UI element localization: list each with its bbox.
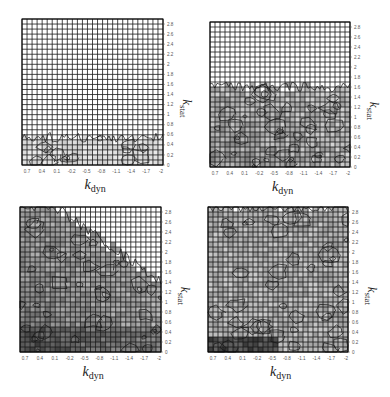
svg-text:0.4: 0.4 [165,330,172,335]
x-axis-ticks: 0.70.40.1-0.2-0.5-0.8-1.1-1.4-1.7-2 [22,356,162,361]
svg-text:2: 2 [165,250,168,255]
svg-text:1: 1 [354,115,357,120]
svg-text:0.2: 0.2 [352,340,359,345]
svg-text:1.2: 1.2 [354,105,361,110]
plot-panel-top-left: 00.20.40.60.811.21.41.61.822.22.42.62.80… [22,19,203,205]
svg-text:2.8: 2.8 [165,210,172,215]
x-axis-label: kdyn [85,177,106,194]
svg-text:1: 1 [165,300,168,305]
svg-text:2.8: 2.8 [167,22,174,27]
svg-text:0.4: 0.4 [354,145,361,150]
y-axis-ticks: 00.20.40.60.811.21.41.61.822.22.42.62.8 [350,25,361,170]
svg-text:2.6: 2.6 [354,35,361,40]
svg-text:-1.4: -1.4 [127,169,135,174]
svg-text:0.7: 0.7 [210,356,217,361]
x-axis-ticks: 0.70.40.1-0.2-0.5-0.8-1.1-1.4-1.7-2 [24,169,164,174]
plot-panel-bottom-left: 00.20.40.60.811.21.41.61.822.22.42.62.80… [20,207,201,392]
svg-text:2.4: 2.4 [354,45,361,50]
svg-text:1.4: 1.4 [167,92,174,97]
svg-text:1.8: 1.8 [165,260,172,265]
svg-text:0.8: 0.8 [352,310,359,315]
x-axis-ticks: 0.70.40.1-0.2-0.5-0.8-1.1-1.4-1.7-2 [212,171,351,176]
svg-text:-0.5: -0.5 [81,356,89,361]
svg-text:-0.2: -0.2 [66,356,74,361]
svg-text:2.6: 2.6 [165,220,172,225]
svg-text:-1.1: -1.1 [112,169,120,174]
svg-text:0: 0 [165,350,168,355]
svg-text:1.2: 1.2 [167,102,174,107]
svg-text:2.2: 2.2 [352,240,359,245]
svg-text:-0.5: -0.5 [268,356,276,361]
svg-text:2.6: 2.6 [167,32,174,37]
svg-text:2.8: 2.8 [352,210,359,215]
svg-text:1.8: 1.8 [354,75,361,80]
svg-text:-0.8: -0.8 [285,171,293,176]
svg-text:1.6: 1.6 [352,270,359,275]
svg-text:0: 0 [354,165,357,170]
svg-text:0.1: 0.1 [54,169,61,174]
svg-text:-1.1: -1.1 [110,356,118,361]
svg-text:0.4: 0.4 [227,171,234,176]
svg-text:-2: -2 [346,171,351,176]
svg-text:0.4: 0.4 [39,169,46,174]
svg-text:0.6: 0.6 [352,320,359,325]
svg-text:2.2: 2.2 [354,55,361,60]
svg-text:0.2: 0.2 [354,155,361,160]
x-axis-label: kdyn [83,364,104,381]
plot-panel-bottom-right: 00.20.40.60.811.21.41.61.822.22.42.62.80… [208,207,388,392]
svg-text:-1.7: -1.7 [327,356,335,361]
svg-text:1.6: 1.6 [165,270,172,275]
svg-text:0.4: 0.4 [352,330,359,335]
svg-text:1.6: 1.6 [354,85,361,90]
svg-text:0.4: 0.4 [225,356,232,361]
svg-text:0.6: 0.6 [165,320,172,325]
svg-text:0.7: 0.7 [212,171,219,176]
x-axis-label: kdyn [272,179,293,196]
svg-text:0.1: 0.1 [241,171,248,176]
svg-text:1.4: 1.4 [352,280,359,285]
svg-text:0.4: 0.4 [167,142,174,147]
svg-text:-0.8: -0.8 [283,356,291,361]
svg-text:1: 1 [352,300,355,305]
svg-text:1.2: 1.2 [165,290,172,295]
svg-text:1.4: 1.4 [165,280,172,285]
x-axis-ticks: 0.70.40.1-0.2-0.5-0.8-1.1-1.4-1.7-2 [210,356,349,361]
svg-text:2.4: 2.4 [352,230,359,235]
svg-text:0.1: 0.1 [52,356,59,361]
y-axis-label: kstat [363,287,380,306]
svg-text:-0.2: -0.2 [255,171,263,176]
svg-text:2: 2 [354,65,357,70]
svg-text:0.1: 0.1 [239,356,246,361]
svg-text:-1.4: -1.4 [312,356,320,361]
svg-text:0.4: 0.4 [37,356,44,361]
plot-panel-top-right: 00.20.40.60.811.21.41.61.822.22.42.62.80… [210,22,390,207]
svg-text:2.8: 2.8 [354,25,361,30]
svg-text:2.4: 2.4 [165,230,172,235]
svg-text:-1.4: -1.4 [125,356,133,361]
svg-text:-1.7: -1.7 [140,356,148,361]
svg-text:-1.1: -1.1 [300,171,308,176]
svg-text:2: 2 [167,62,170,67]
svg-text:-0.5: -0.5 [83,169,91,174]
svg-text:0.8: 0.8 [167,122,174,127]
svg-text:1.8: 1.8 [167,72,174,77]
svg-text:-1.7: -1.7 [329,171,337,176]
svg-text:0.6: 0.6 [167,132,174,137]
y-axis-label: kstat [176,287,193,306]
svg-text:-2: -2 [159,169,164,174]
svg-text:0.8: 0.8 [354,125,361,130]
svg-text:1.6: 1.6 [167,82,174,87]
y-axis-ticks: 00.20.40.60.811.21.41.61.822.22.42.62.8 [161,210,172,355]
svg-text:2.2: 2.2 [167,52,174,57]
svg-text:-2: -2 [157,356,162,361]
svg-text:0.8: 0.8 [165,310,172,315]
svg-text:-2: -2 [344,356,349,361]
svg-text:1.4: 1.4 [354,95,361,100]
svg-text:2.4: 2.4 [167,42,174,47]
y-axis-ticks: 00.20.40.60.811.21.41.61.822.22.42.62.8 [348,210,359,355]
svg-text:0.2: 0.2 [167,153,174,158]
x-axis-label: kdyn [270,364,291,381]
svg-text:2: 2 [352,250,355,255]
svg-text:0.7: 0.7 [24,169,31,174]
svg-text:-1.7: -1.7 [142,169,150,174]
